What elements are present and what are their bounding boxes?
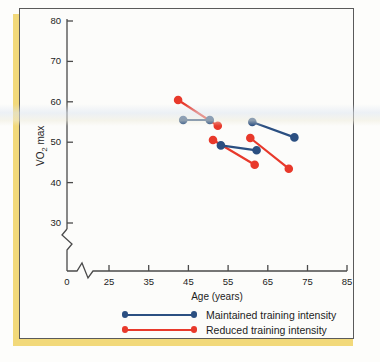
chart-panel: 80 70 60 50 40 30 0 25 35 45 55 65 75 85… <box>19 8 354 339</box>
x-tick-65: 65 <box>258 276 278 287</box>
y-axis-title-sub: 2 <box>40 147 49 151</box>
y-axis-title: VO2 max <box>35 126 49 166</box>
legend-label-reduced: Reduced training intensity <box>206 324 327 336</box>
x-tick-55: 55 <box>218 276 238 287</box>
series-reduced <box>175 97 292 172</box>
x-tick-45: 45 <box>178 276 198 287</box>
figure-root: 80 70 60 50 40 30 0 25 35 45 55 65 75 85… <box>0 0 380 362</box>
legend-item-maintained: Maintained training intensity <box>121 307 336 322</box>
x-tick-25: 25 <box>99 276 119 287</box>
legend-label-maintained: Maintained training intensity <box>206 309 336 321</box>
x-tick-75: 75 <box>298 276 318 287</box>
legend-item-reduced: Reduced training intensity <box>121 322 336 337</box>
x-axis-title: Age (years) <box>167 291 267 302</box>
y-tick-40: 40 <box>41 177 61 188</box>
y-tick-60: 60 <box>41 96 61 107</box>
chart-legend: Maintained training intensity Reduced tr… <box>121 307 336 337</box>
series-maintained <box>180 117 298 154</box>
y-axis-title-main: VO <box>35 152 46 166</box>
y-tick-80: 80 <box>41 15 61 26</box>
legend-swatch-reduced <box>121 324 199 335</box>
y-tick-70: 70 <box>41 55 61 66</box>
plot-area: 80 70 60 50 40 30 0 25 35 45 55 65 75 85… <box>1 1 380 362</box>
x-tick-0: 0 <box>57 276 77 287</box>
x-tick-85: 85 <box>337 276 357 287</box>
y-axis-title-tail: max <box>35 126 46 148</box>
x-tick-35: 35 <box>139 276 159 287</box>
y-tick-30: 30 <box>41 217 61 228</box>
legend-swatch-maintained <box>121 309 199 320</box>
